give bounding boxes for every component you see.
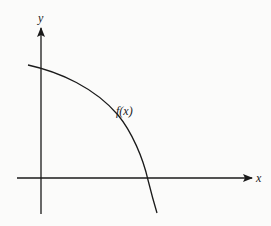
function-curve: [28, 65, 157, 213]
curve-label: f(x): [116, 105, 133, 117]
x-axis-label: x: [256, 172, 261, 184]
y-axis-label: y: [38, 12, 43, 24]
graph-canvas: [0, 0, 271, 226]
